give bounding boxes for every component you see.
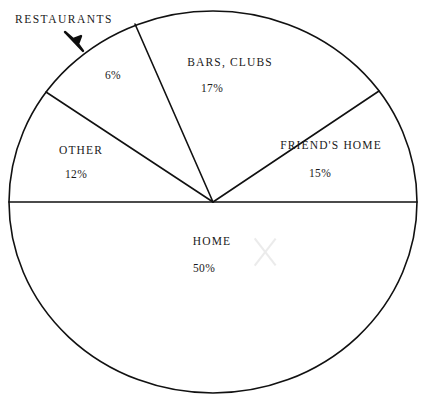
slice-value-restaurants: 6% [105, 69, 121, 81]
slice-label-restaurants: RESTAURANTS [15, 13, 113, 25]
slice-value-other: 12% [65, 168, 87, 180]
slice-divider-restaurants-bars [135, 24, 213, 202]
slice-label-home: HOME [193, 235, 231, 247]
slice-label-friends-home: FRIEND'S HOME [280, 139, 382, 151]
slice-label-bars-clubs: BARS, CLUBS [187, 56, 273, 68]
restaurants-arrow-icon [65, 32, 83, 51]
slice-value-bars-clubs: 17% [201, 82, 223, 94]
scan-smudge-artifact [248, 235, 282, 269]
pie-chart: RESTAURANTS 6% BARS, CLUBS 17% FRIEND'S … [0, 0, 426, 402]
slice-value-friends-home: 15% [309, 167, 331, 179]
slice-label-other: OTHER [59, 144, 103, 156]
slice-value-home: 50% [193, 262, 215, 274]
